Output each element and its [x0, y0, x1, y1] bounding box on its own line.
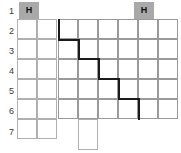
- left-grid-cell-r3-c1[interactable]: [17, 59, 37, 79]
- main-grid-cell-r5-c1[interactable]: [58, 99, 78, 119]
- main-grid-cell-r1-c5[interactable]: [138, 19, 158, 39]
- puzzle-canvas: 1234567 HH: [0, 0, 181, 153]
- main-grid-cell-r3-c2[interactable]: [78, 59, 98, 79]
- main-grid-cell-r2-c5[interactable]: [138, 39, 158, 59]
- main-grid-cell-r2-c1[interactable]: [58, 39, 78, 59]
- header-chip-right[interactable]: H: [134, 2, 154, 19]
- main-grid-cell-r4-c5[interactable]: [138, 79, 158, 99]
- main-grid-cell-r3-c5[interactable]: [138, 59, 158, 79]
- row-number-6: 6: [2, 107, 14, 116]
- main-grid-cell-r1-c2[interactable]: [78, 19, 98, 39]
- main-grid-cell-r3-c1[interactable]: [58, 59, 78, 79]
- left-grid-cell-r1-c1[interactable]: [17, 19, 37, 39]
- left-grid-cell-r6-c1[interactable]: [17, 119, 37, 139]
- overflow-cell-bottom[interactable]: [78, 119, 98, 150]
- left-grid-cell-r1-c2[interactable]: [37, 19, 57, 39]
- row-number-7: 7: [2, 128, 14, 137]
- main-grid-cell-r5-c6[interactable]: [158, 99, 178, 119]
- main-grid-cell-r3-c3[interactable]: [98, 59, 118, 79]
- main-grid-cell-r4-c6[interactable]: [158, 79, 178, 99]
- main-grid-cell-r5-c4[interactable]: [118, 99, 138, 119]
- main-grid-cell-r2-c3[interactable]: [98, 39, 118, 59]
- main-grid-cell-r1-c1[interactable]: [58, 19, 78, 39]
- row-number-1: 1: [2, 7, 14, 16]
- row-number-5: 5: [2, 87, 14, 96]
- left-grid-cell-r2-c1[interactable]: [17, 39, 37, 59]
- left-grid-cell-r4-c2[interactable]: [37, 79, 57, 99]
- left-grid-cell-r3-c2[interactable]: [37, 59, 57, 79]
- left-grid-cell-r5-c1[interactable]: [17, 99, 37, 119]
- main-grid-cell-r3-c4[interactable]: [118, 59, 138, 79]
- main-grid-cell-r2-c6[interactable]: [158, 39, 178, 59]
- main-grid-cell-r1-c6[interactable]: [158, 19, 178, 39]
- main-grid-cell-r4-c1[interactable]: [58, 79, 78, 99]
- left-grid-cell-r2-c2[interactable]: [37, 39, 57, 59]
- main-grid-cell-r5-c2[interactable]: [78, 99, 98, 119]
- header-chip-left[interactable]: H: [19, 2, 39, 19]
- main-grid-cell-r4-c4[interactable]: [118, 79, 138, 99]
- left-grid-cell-r5-c2[interactable]: [37, 99, 57, 119]
- left-grid-cell-r6-c2[interactable]: [37, 119, 57, 139]
- left-grid-cell-r4-c1[interactable]: [17, 79, 37, 99]
- main-grid-cell-r1-c3[interactable]: [98, 19, 118, 39]
- row-number-4: 4: [2, 67, 14, 76]
- main-grid-cell-r4-c2[interactable]: [78, 79, 98, 99]
- row-number-3: 3: [2, 47, 14, 56]
- main-grid-cell-r3-c6[interactable]: [158, 59, 178, 79]
- main-grid-cell-r2-c4[interactable]: [118, 39, 138, 59]
- main-grid-cell-r4-c3[interactable]: [98, 79, 118, 99]
- main-grid-cell-r1-c4[interactable]: [118, 19, 138, 39]
- main-grid-cell-r2-c2[interactable]: [78, 39, 98, 59]
- main-grid-cell-r5-c5[interactable]: [138, 99, 158, 119]
- row-number-2: 2: [2, 27, 14, 36]
- main-grid-cell-r5-c3[interactable]: [98, 99, 118, 119]
